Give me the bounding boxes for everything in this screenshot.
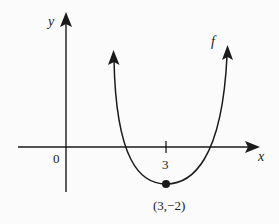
parabola-curve-f xyxy=(114,56,227,184)
function-label: f xyxy=(211,35,215,49)
origin-label: 0 xyxy=(53,152,60,165)
vertex-label: (3,−2) xyxy=(153,199,185,212)
x-tick-label-3: 3 xyxy=(162,158,169,171)
graph-canvas xyxy=(0,0,279,224)
vertex-point xyxy=(162,180,170,188)
x-axis-label: x xyxy=(258,150,264,164)
y-axis-label: y xyxy=(48,15,54,29)
parabola-figure: y f x 0 3 (3,−2) xyxy=(0,0,279,224)
